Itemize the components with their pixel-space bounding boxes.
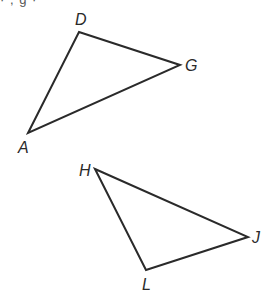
triangle-diagram: D G A H J L <box>0 0 275 304</box>
vertex-label-a: A <box>17 139 29 156</box>
vertex-label-j: J <box>251 229 261 246</box>
triangle-hjl <box>95 169 248 270</box>
vertex-label-l: L <box>142 276 151 293</box>
vertex-label-d: D <box>75 11 87 28</box>
vertex-label-g: G <box>185 57 197 74</box>
triangle-dga <box>28 32 180 133</box>
vertex-label-h: H <box>79 162 91 179</box>
